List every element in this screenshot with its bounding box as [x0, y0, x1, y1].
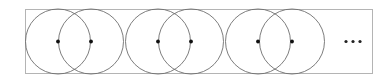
figure-diagram — [0, 0, 386, 84]
center-point-1 — [56, 40, 60, 44]
continuation-ellipsis-icon — [344, 40, 361, 43]
bounding-rectangle — [26, 10, 373, 74]
center-point-4 — [189, 40, 193, 44]
center-point-3 — [156, 40, 160, 44]
center-point-6 — [290, 40, 294, 44]
ellipsis-dot-2 — [351, 40, 354, 43]
circle-pair-1 — [26, 9, 124, 74]
ellipsis-dot-1 — [344, 40, 347, 43]
center-points — [56, 40, 294, 44]
center-point-2 — [89, 40, 93, 44]
center-point-5 — [256, 40, 260, 44]
circle-pair-3 — [226, 9, 325, 74]
figure-canvas — [0, 0, 386, 84]
ellipsis-dot-3 — [358, 40, 361, 43]
circle-pair-2 — [126, 9, 224, 74]
